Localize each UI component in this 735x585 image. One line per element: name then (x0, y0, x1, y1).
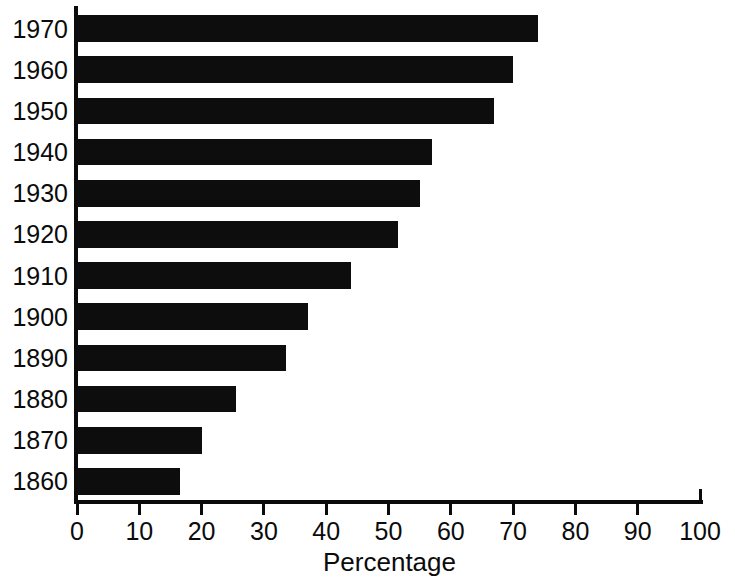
bar-1870 (77, 427, 202, 454)
x-tick-label-30: 30 (250, 517, 278, 546)
x-axis-title-text: Percentage (323, 547, 456, 577)
x-tick-20 (200, 504, 203, 515)
x-tick-label-0: 0 (70, 517, 84, 546)
bar-row (77, 386, 700, 413)
bar-1970 (77, 15, 538, 42)
y-axis-label-1920: 1920 (0, 221, 68, 247)
x-tick-label-40: 40 (312, 517, 340, 546)
y-axis-label-1950: 1950 (0, 98, 68, 124)
y-axis-label-1870: 1870 (0, 427, 68, 453)
bar-1930 (77, 180, 420, 207)
x-tick-10 (138, 504, 141, 515)
x-tick-label-50: 50 (375, 517, 403, 546)
bar-row (77, 180, 700, 207)
y-axis-label-1940: 1940 (0, 139, 68, 165)
x-tick-label-20: 20 (188, 517, 216, 546)
bar-row (77, 56, 700, 83)
bar-row (77, 303, 700, 330)
y-axis-label-1860: 1860 (0, 468, 68, 494)
y-axis-label-1930: 1930 (0, 180, 68, 206)
bar-1890 (77, 345, 286, 372)
x-tick-0 (76, 504, 79, 515)
bar-1910 (77, 262, 351, 289)
x-tick-60 (449, 504, 452, 515)
bar-1860 (77, 468, 180, 495)
bar-1920 (77, 221, 398, 248)
bar-row (77, 262, 700, 289)
x-tick-label-60: 60 (437, 517, 465, 546)
bar-row (77, 468, 700, 495)
x-tick-label-100: 100 (679, 517, 721, 546)
y-axis-label-1900: 1900 (0, 304, 68, 330)
plot-area (77, 8, 700, 502)
bar-row (77, 15, 700, 42)
bar-1880 (77, 386, 236, 413)
x-tick-label-70: 70 (499, 517, 527, 546)
bar-row (77, 139, 700, 166)
bar-row (77, 221, 700, 248)
bar-1900 (77, 303, 308, 330)
y-axis-label-1910: 1910 (0, 263, 68, 289)
x-tick-40 (325, 504, 328, 515)
bar-1940 (77, 139, 432, 166)
bar-row (77, 345, 700, 372)
x-axis-title: Percentage (0, 547, 735, 577)
bar-1950 (77, 98, 494, 125)
y-axis-label-1890: 1890 (0, 345, 68, 371)
x-tick-90 (636, 504, 639, 515)
x-tick-label-90: 90 (624, 517, 652, 546)
x-tick-30 (262, 504, 265, 515)
bar-chart: 0102030405060708090100 19701960195019401… (0, 0, 735, 585)
bar-row (77, 427, 700, 454)
x-tick-50 (387, 504, 390, 515)
y-axis-label-1970: 1970 (0, 16, 68, 42)
bar-row (77, 98, 700, 125)
y-axis-label-1960: 1960 (0, 57, 68, 83)
y-axis-label-1880: 1880 (0, 386, 68, 412)
x-tick-label-10: 10 (125, 517, 153, 546)
x-tick-70 (512, 504, 515, 515)
x-tick-label-80: 80 (561, 517, 589, 546)
x-tick-80 (574, 504, 577, 515)
bar-1960 (77, 56, 513, 83)
